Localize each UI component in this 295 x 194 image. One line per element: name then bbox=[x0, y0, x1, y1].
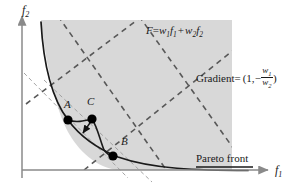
point-label-B: B bbox=[121, 136, 128, 147]
y-axis-label: f2 bbox=[22, 4, 29, 19]
point-label-C: C bbox=[87, 96, 94, 107]
gradient-open-paren: (1, bbox=[241, 72, 255, 84]
x-axis-label-sub: 1 bbox=[278, 170, 282, 179]
objective-f2-sub: 2 bbox=[199, 30, 203, 39]
gradient-fraction-denominator: w2 bbox=[261, 78, 272, 89]
pareto-front-figure: f2 f1 F=w1f1+w2f2 Gradient=(1,−w1w2) Par… bbox=[0, 0, 295, 194]
objective-symbol-F: F bbox=[146, 24, 153, 36]
x-axis-label: f1 bbox=[275, 164, 282, 179]
gradient-den-sub: 2 bbox=[268, 82, 271, 89]
gradient-minus-sign: − bbox=[255, 72, 261, 84]
pareto-front-label: Pareto front bbox=[196, 153, 248, 164]
point-B bbox=[108, 151, 117, 160]
gradient-word: Gradient bbox=[196, 72, 234, 84]
point-C bbox=[87, 114, 96, 123]
point-A bbox=[63, 115, 72, 124]
objective-function-annotation: F=w1f1+w2f2 bbox=[146, 25, 203, 39]
gradient-close-paren: ) bbox=[273, 72, 277, 84]
gradient-num-sub: 1 bbox=[268, 70, 271, 77]
gradient-equals: = bbox=[234, 72, 240, 84]
feasible-region bbox=[41, 20, 232, 170]
y-axis-label-sub: 2 bbox=[25, 10, 29, 19]
gradient-fraction: w1w2 bbox=[261, 66, 272, 90]
point-label-A: A bbox=[64, 99, 71, 110]
objective-plus: + bbox=[177, 24, 185, 36]
gradient-annotation: Gradient=(1,−w1w2) bbox=[196, 66, 277, 90]
